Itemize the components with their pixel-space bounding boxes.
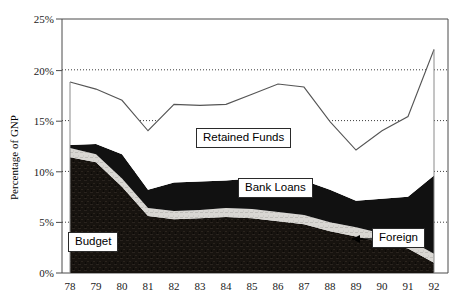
y-tick-label: 20% [34,65,54,77]
x-tick-label: 82 [169,280,180,292]
y-tick-label: 15% [34,115,54,127]
series-label-bank-loans: Bank Loans [238,178,313,198]
x-tick-label: 91 [403,280,414,292]
y-tick-labels: 25% 20% 15% 10% 5% 0% [34,13,54,279]
series-label-budget: Budget [68,232,118,252]
y-tick-label: 10% [34,166,54,178]
y-axis-ticks [56,19,62,273]
x-tick-labels: 78 79 80 81 82 83 84 85 86 87 88 89 90 9… [65,280,440,292]
x-tick-label: 85 [247,280,259,292]
y-tick-label: 5% [39,216,54,228]
x-tick-label: 86 [273,280,285,292]
series-label-retained-funds: Retained Funds [196,128,291,148]
x-tick-label: 83 [195,280,207,292]
x-tick-label: 89 [351,280,363,292]
stacked-area-chart: 25% 20% 15% 10% 5% 0% Percentage of GNP … [0,0,462,301]
y-axis-title: Percentage of GNP [8,115,20,200]
x-tick-label: 88 [325,280,337,292]
chart-canvas: 25% 20% 15% 10% 5% 0% Percentage of GNP … [0,0,462,301]
x-tick-label: 81 [143,280,154,292]
x-tick-label: 78 [65,280,77,292]
x-tick-label: 79 [91,280,103,292]
series-label-foreign: Foreign [372,228,425,248]
x-tick-label: 84 [221,280,233,292]
y-tick-label: 0% [39,267,54,279]
x-tick-label: 92 [429,280,440,292]
x-tick-label: 87 [299,280,311,292]
x-tick-label: 80 [117,280,129,292]
y-tick-label: 25% [34,13,54,25]
x-tick-label: 90 [377,280,389,292]
